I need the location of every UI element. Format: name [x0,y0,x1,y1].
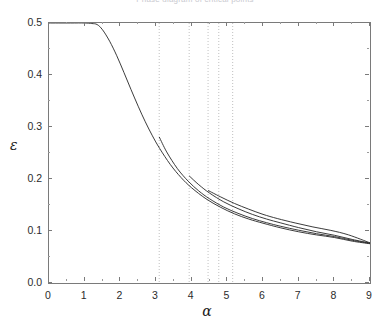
x-tick [226,22,227,26]
x-minor-tick [316,279,317,281]
x-tick [119,22,120,26]
x-tick-label: 7 [295,289,301,301]
x-minor-tick [209,279,210,281]
x-tick [191,277,192,281]
x-tick-label: 4 [188,289,194,301]
x-tick-label: 0 [45,289,51,301]
x-tick [191,22,192,26]
x-tick-label: 5 [223,289,229,301]
x-tick [155,22,156,26]
chart-title: Phase diagram of critical points [120,0,270,4]
y-minor-tick [48,256,50,257]
x-minor-tick [351,279,352,281]
x-tick [369,277,370,281]
y-tick [365,230,369,231]
y-tick [48,126,52,127]
clipped-title-strip: Phase diagram of critical points [120,0,270,7]
y-minor-tick [367,48,369,49]
y-minor-tick [367,100,369,101]
y-tick-label: 0.4 [8,68,42,80]
x-minor-tick [137,279,138,281]
x-minor-tick [280,279,281,281]
y-tick-label: 0.0 [8,276,42,288]
y-tick [48,282,52,283]
x-minor-tick [280,22,281,24]
y-tick-label: 0.3 [8,120,42,132]
marker-line-group [159,23,232,283]
y-tick [365,74,369,75]
plot-svg [49,23,370,283]
x-tick [226,277,227,281]
x-minor-tick [244,22,245,24]
curve-curve-4 [208,190,370,242]
x-minor-tick [316,22,317,24]
y-tick [48,178,52,179]
x-minor-tick [244,279,245,281]
y-minor-tick [367,152,369,153]
x-tick [333,277,334,281]
y-tick [365,282,369,283]
x-tick-label: 1 [81,289,87,301]
x-minor-tick [351,22,352,24]
x-minor-tick [66,279,67,281]
y-tick-label: 0.2 [8,172,42,184]
x-minor-tick [102,22,103,24]
y-axis-title: ε [10,137,18,153]
y-tick [365,178,369,179]
x-tick [262,22,263,26]
y-tick [48,74,52,75]
y-minor-tick [367,204,369,205]
x-axis-title: α [202,303,211,319]
x-tick [262,277,263,281]
y-minor-tick [367,256,369,257]
x-tick-label: 9 [366,289,372,301]
y-tick [365,22,369,23]
x-minor-tick [209,22,210,24]
x-tick [298,277,299,281]
x-tick [369,22,370,26]
x-tick-label: 8 [330,289,336,301]
y-tick [48,22,52,23]
y-tick [48,230,52,231]
y-minor-tick [48,100,50,101]
figure-canvas: Phase diagram of critical points 0123456… [0,0,387,331]
curve-curve-2 [159,137,370,244]
y-tick [365,126,369,127]
y-minor-tick [48,204,50,205]
x-tick-label: 6 [259,289,265,301]
curve-curve-1 [49,23,370,244]
x-tick [84,22,85,26]
plot-area [48,22,371,284]
x-tick [333,22,334,26]
x-tick [84,277,85,281]
x-tick-label: 3 [152,289,158,301]
x-minor-tick [173,279,174,281]
x-tick [155,277,156,281]
x-minor-tick [137,22,138,24]
x-tick-label: 2 [116,289,122,301]
x-tick [48,277,49,281]
x-tick [119,277,120,281]
curve-group [49,23,370,244]
y-minor-tick [48,152,50,153]
x-minor-tick [102,279,103,281]
x-tick [298,22,299,26]
y-tick-label: 0.5 [8,16,42,28]
y-tick-label: 0.1 [8,224,42,236]
x-minor-tick [66,22,67,24]
y-minor-tick [48,48,50,49]
x-minor-tick [173,22,174,24]
